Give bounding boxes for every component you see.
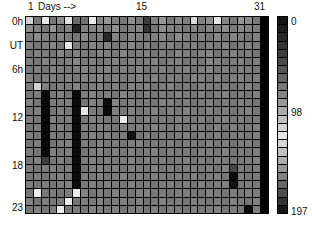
heatmap-cell <box>167 91 174 98</box>
heatmap-cell <box>167 132 174 139</box>
heatmap-cell <box>214 58 221 65</box>
heatmap-cell <box>120 189 127 196</box>
heatmap-cell <box>120 33 127 40</box>
heatmap-cell <box>214 33 221 40</box>
heatmap-cell <box>159 173 166 180</box>
colorbar-cell <box>278 189 287 196</box>
heatmap-cell <box>206 25 213 32</box>
heatmap-cell <box>65 42 72 49</box>
heatmap-cell <box>261 132 268 139</box>
heatmap-cell <box>112 173 119 180</box>
heatmap-cell <box>128 173 135 180</box>
heatmap-cell <box>245 99 252 106</box>
heatmap-cell <box>214 173 221 180</box>
heatmap-cell <box>191 99 198 106</box>
heatmap-cell <box>261 17 268 24</box>
heatmap-cell <box>222 50 229 57</box>
heatmap-cell <box>245 42 252 49</box>
heatmap-cell <box>136 83 143 90</box>
heatmap-cell <box>214 107 221 114</box>
heatmap-cell <box>128 181 135 188</box>
heatmap-cell <box>34 148 41 155</box>
heatmap-cell <box>73 83 80 90</box>
heatmap-cell <box>65 189 72 196</box>
heatmap-cell <box>159 140 166 147</box>
heatmap-cell <box>253 42 260 49</box>
heatmap-cell <box>144 181 151 188</box>
heatmap-cell <box>104 165 111 172</box>
heatmap-cell <box>26 25 33 32</box>
heatmap-cell <box>151 206 158 213</box>
heatmap-cell <box>214 66 221 73</box>
heatmap-cell <box>191 148 198 155</box>
heatmap-cell <box>112 206 119 213</box>
heatmap-cell <box>245 25 252 32</box>
heatmap-cell <box>97 173 104 180</box>
heatmap-cell <box>97 132 104 139</box>
heatmap-cell <box>112 148 119 155</box>
heatmap-cell <box>144 116 151 123</box>
heatmap-cell <box>198 206 205 213</box>
heatmap-cell <box>50 132 57 139</box>
heatmap-cell <box>159 107 166 114</box>
heatmap-cell <box>120 198 127 205</box>
heatmap-cell <box>230 17 237 24</box>
heatmap-cell <box>206 157 213 164</box>
heatmap-cell <box>191 17 198 24</box>
heatmap-cell <box>42 124 49 131</box>
heatmap-cell <box>136 99 143 106</box>
heatmap-cell <box>112 66 119 73</box>
heatmap-cell <box>159 157 166 164</box>
heatmap-cell <box>120 116 127 123</box>
heatmap-cell <box>26 181 33 188</box>
heatmap-cell <box>206 140 213 147</box>
heatmap-cell <box>26 66 33 73</box>
yaxis-tick-0h: 0h <box>12 17 23 27</box>
heatmap-cell <box>97 99 104 106</box>
heatmap-cell <box>175 25 182 32</box>
heatmap-cell <box>167 66 174 73</box>
heatmap-cell <box>144 124 151 131</box>
heatmap-cell <box>26 42 33 49</box>
heatmap-cell <box>175 173 182 180</box>
heatmap-cell <box>151 83 158 90</box>
heatmap-cell <box>81 74 88 81</box>
heatmap-cell <box>73 206 80 213</box>
heatmap-cell <box>34 17 41 24</box>
heatmap-cell <box>238 181 245 188</box>
heatmap-cell <box>120 58 127 65</box>
colorbar-cell <box>278 83 287 90</box>
heatmap-cell <box>167 206 174 213</box>
heatmap-cell <box>26 58 33 65</box>
heatmap-cell <box>214 157 221 164</box>
heatmap-cell <box>144 148 151 155</box>
heatmap-cell <box>222 198 229 205</box>
heatmap-cell <box>159 58 166 65</box>
heatmap-cell <box>261 116 268 123</box>
heatmap-cell <box>183 165 190 172</box>
heatmap-cell <box>183 83 190 90</box>
heatmap-cell <box>120 50 127 57</box>
heatmap-cell <box>50 165 57 172</box>
heatmap-cell <box>183 132 190 139</box>
heatmap-cell <box>120 206 127 213</box>
heatmap-cell <box>65 124 72 131</box>
heatmap-cell <box>34 181 41 188</box>
heatmap-cell <box>136 165 143 172</box>
heatmap-cell <box>34 25 41 32</box>
heatmap-cell <box>230 173 237 180</box>
heatmap-cell <box>81 99 88 106</box>
heatmap-cell <box>89 74 96 81</box>
heatmap-cell <box>73 58 80 65</box>
heatmap-cell <box>26 99 33 106</box>
heatmap-cell <box>26 33 33 40</box>
heatmap-cell <box>73 157 80 164</box>
heatmap-cell <box>120 140 127 147</box>
heatmap-cell <box>144 66 151 73</box>
xaxis-tick-day-1: 1 <box>28 1 34 13</box>
colorbar-cell <box>278 74 287 81</box>
heatmap-cell <box>238 107 245 114</box>
heatmap-cell <box>97 206 104 213</box>
heatmap-cell <box>128 148 135 155</box>
heatmap-cell <box>175 198 182 205</box>
